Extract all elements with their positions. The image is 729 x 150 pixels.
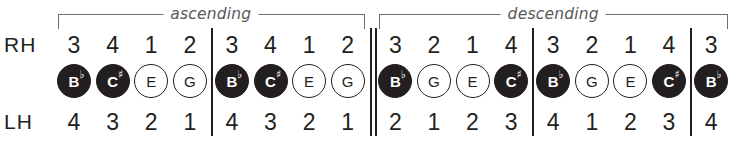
note-letter: C♯ xyxy=(664,74,675,89)
bracket-label-descending: descending xyxy=(501,5,606,23)
flat-icon: ♭ xyxy=(401,69,406,80)
note-letter: E xyxy=(304,74,314,89)
lh-finger-14: 1 xyxy=(574,109,610,135)
finger-number: 3 xyxy=(693,32,729,58)
note-letter: B♭ xyxy=(69,74,80,89)
finger-number: 2 xyxy=(172,32,208,58)
note-1-b-flat: B♭ xyxy=(57,64,91,98)
finger-number: 3 xyxy=(535,32,571,58)
finger-number: 3 xyxy=(253,109,289,135)
row-label-left-hand: LH xyxy=(4,110,33,134)
note-letter: B♭ xyxy=(390,74,401,89)
sharp-icon: ♯ xyxy=(517,69,522,80)
lh-finger-7: 2 xyxy=(291,109,327,135)
lh-finger-15: 2 xyxy=(612,109,648,135)
rh-finger-14: 2 xyxy=(574,32,610,58)
rh-finger-12: 4 xyxy=(493,32,529,58)
note-letter: G xyxy=(586,74,598,89)
finger-number: 1 xyxy=(574,109,610,135)
rh-finger-10: 2 xyxy=(416,32,452,58)
finger-number: 2 xyxy=(291,109,327,135)
finger-number: 4 xyxy=(95,32,131,58)
note-letter: B♭ xyxy=(548,74,559,89)
note-17-b-flat: B♭ xyxy=(694,64,728,98)
lh-finger-10: 1 xyxy=(416,109,452,135)
lh-finger-8: 1 xyxy=(330,109,366,135)
rh-finger-15: 1 xyxy=(612,32,648,58)
finger-number: 4 xyxy=(253,32,289,58)
note-letter: G xyxy=(184,74,196,89)
bracket-label-ascending: ascending xyxy=(163,5,258,23)
sharp-icon: ♯ xyxy=(118,69,123,80)
rh-finger-11: 1 xyxy=(455,32,491,58)
rh-finger-5: 3 xyxy=(214,32,250,58)
finger-number: 1 xyxy=(330,109,366,135)
note-13-b-flat: B♭ xyxy=(536,64,570,98)
note-15-e: E xyxy=(613,64,647,98)
lh-finger-12: 3 xyxy=(493,109,529,135)
note-5-b-flat: B♭ xyxy=(215,64,249,98)
note-6-c-sharp: C♯ xyxy=(254,64,288,98)
rh-finger-9: 3 xyxy=(377,32,413,58)
note-letter: C♯ xyxy=(265,74,276,89)
lh-finger-1: 4 xyxy=(56,109,92,135)
barline-4 xyxy=(690,28,691,136)
lh-finger-16: 3 xyxy=(651,109,687,135)
note-letter: G xyxy=(342,74,354,89)
finger-number: 2 xyxy=(612,109,648,135)
flat-icon: ♭ xyxy=(559,69,564,80)
note-4-g: G xyxy=(173,64,207,98)
note-letter: C♯ xyxy=(506,74,517,89)
finger-number: 3 xyxy=(214,32,250,58)
finger-number: 3 xyxy=(377,32,413,58)
lh-finger-2: 3 xyxy=(95,109,131,135)
note-8-g: G xyxy=(331,64,365,98)
rh-finger-2: 4 xyxy=(95,32,131,58)
finger-number: 1 xyxy=(455,32,491,58)
finger-number: 4 xyxy=(651,32,687,58)
finger-number: 3 xyxy=(493,109,529,135)
rh-finger-6: 4 xyxy=(253,32,289,58)
lh-finger-5: 4 xyxy=(214,109,250,135)
note-letter: C♯ xyxy=(107,74,118,89)
note-letter: E xyxy=(467,74,477,89)
barline-3 xyxy=(532,28,533,136)
finger-number: 4 xyxy=(214,109,250,135)
flat-icon: ♭ xyxy=(237,69,242,80)
finger-number: 3 xyxy=(651,109,687,135)
finger-number: 1 xyxy=(133,32,169,58)
flat-icon: ♭ xyxy=(717,69,722,80)
rh-finger-7: 1 xyxy=(291,32,327,58)
note-11-e: E xyxy=(456,64,490,98)
finger-number: 2 xyxy=(416,32,452,58)
sharp-icon: ♯ xyxy=(674,69,679,80)
finger-number: 1 xyxy=(172,109,208,135)
finger-number: 1 xyxy=(416,109,452,135)
finger-number: 1 xyxy=(291,32,327,58)
note-letter: G xyxy=(428,74,440,89)
finger-number: 4 xyxy=(493,32,529,58)
note-letter: B♭ xyxy=(226,74,237,89)
note-12-c-sharp: C♯ xyxy=(494,64,528,98)
lh-finger-17: 4 xyxy=(693,109,729,135)
lh-finger-11: 2 xyxy=(455,109,491,135)
rh-finger-16: 4 xyxy=(651,32,687,58)
double-barline-stroke-2 xyxy=(375,28,377,136)
rh-finger-1: 3 xyxy=(56,32,92,58)
finger-number: 3 xyxy=(95,109,131,135)
bracket-descending: descending xyxy=(379,14,727,34)
rh-finger-3: 1 xyxy=(133,32,169,58)
double-barline-stroke-1 xyxy=(370,28,372,136)
note-10-g: G xyxy=(417,64,451,98)
lh-finger-13: 4 xyxy=(535,109,571,135)
note-16-c-sharp: C♯ xyxy=(652,64,686,98)
rh-finger-13: 3 xyxy=(535,32,571,58)
finger-number: 2 xyxy=(377,109,413,135)
row-label-right-hand: RH xyxy=(4,33,36,57)
finger-number: 2 xyxy=(455,109,491,135)
note-7-e: E xyxy=(292,64,326,98)
finger-number: 1 xyxy=(612,32,648,58)
lh-finger-9: 2 xyxy=(377,109,413,135)
finger-number: 2 xyxy=(330,32,366,58)
